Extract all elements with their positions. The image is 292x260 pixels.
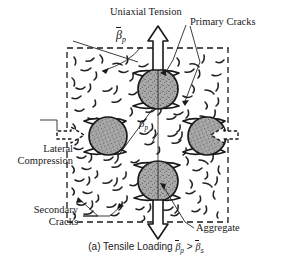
label-lateral-compression-line2: Compression [0,155,73,167]
arrowhead-secondary-cracks-a [76,197,83,203]
caption-beta-p: β [175,241,180,252]
beta-symbol: β [116,28,122,42]
label-aggregate: Aggregate [196,222,240,234]
label-beta-bar-p: βp [116,27,126,44]
caption-beta-p-sub: p [180,247,184,254]
label-secondary-cracks-line2: Cracks [0,216,78,228]
aggregate-bottom [134,161,180,201]
arrowhead-beta-bar-p [102,68,109,74]
caption-formula: βp > βs [173,241,204,252]
leader-lateral-compression [40,120,57,131]
label-secondary-cracks: SecondaryCracks [0,204,78,228]
beta-subscript: p [122,35,126,44]
arrowhead-primary-cracks-b [182,100,189,106]
leader-primary-cracks-a [164,25,186,75]
aggregate-top [133,69,179,109]
leader-beta-bar-p-arc [102,47,141,71]
tensile-loading-figure: Uniaxial Tension Primary Cracks βp βp La… [0,0,292,260]
compression-arrow-left [57,127,84,143]
caption-relation: > [187,241,193,252]
label-beta-angle: βp [139,117,148,132]
label-primary-cracks: Primary Cracks [190,16,256,28]
aggregate-left [84,117,127,155]
caption-beta-s-sub: s [200,247,203,254]
label-lateral-compression-line1: Lateral [0,143,73,155]
label-secondary-cracks-line1: Secondary [0,204,78,216]
label-uniaxial-tension: Uniaxial Tension [110,6,182,18]
beta-angle-subscript: p [144,124,148,132]
caption-beta-s: β [195,241,200,252]
figure-caption: (a) Tensile Loading βp > βs [0,240,292,254]
label-lateral-compression: LateralCompression [0,143,73,167]
caption-prefix: (a) Tensile Loading [88,241,172,252]
